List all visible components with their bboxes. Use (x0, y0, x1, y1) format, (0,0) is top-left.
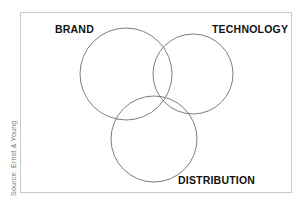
venn-label-technology: TECHNOLOGY (212, 23, 288, 35)
diagram-frame (20, 12, 292, 193)
venn-label-brand: BRAND (55, 23, 94, 35)
venn-diagram-figure: BRAND TECHNOLOGY DISTRIBUTION Source: Er… (0, 0, 300, 205)
source-credit: Source: Ernst & Young (8, 106, 20, 196)
venn-label-distribution: DISTRIBUTION (178, 174, 255, 186)
